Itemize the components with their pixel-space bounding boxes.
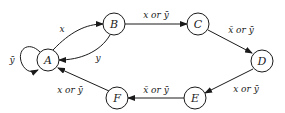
node-D: D	[251, 50, 273, 72]
edge-B-A	[59, 35, 110, 60]
node-label-F: F	[112, 92, 121, 105]
node-A: A	[37, 49, 59, 71]
node-label-D: D	[257, 55, 267, 68]
node-label-C: C	[194, 18, 203, 31]
node-label-B: B	[109, 18, 118, 31]
node-E: E	[184, 87, 206, 109]
edge-label-D-E: x or ȳ	[233, 84, 260, 94]
edge-label-E-F: x̄ or ȳ	[143, 85, 170, 95]
node-B: B	[103, 13, 125, 35]
edge-label-A-A: ȳ	[8, 55, 15, 65]
edge-label-B-C: x or ȳ	[143, 10, 170, 20]
node-F: F	[106, 87, 128, 109]
node-label-E: E	[190, 92, 199, 105]
edge-label-C-D: x̄ or ȳ	[228, 25, 255, 35]
edge-label-A-B: x	[59, 24, 64, 34]
edge-label-F-A: x or ȳ	[57, 85, 84, 95]
node-label-A: A	[43, 54, 52, 67]
state-diagram: ȳ x y x or ȳ x̄ or ȳ x or ȳ x̄ or ȳ x or…	[0, 0, 285, 113]
edge-label-B-A: y	[94, 53, 101, 63]
node-C: C	[187, 13, 209, 35]
